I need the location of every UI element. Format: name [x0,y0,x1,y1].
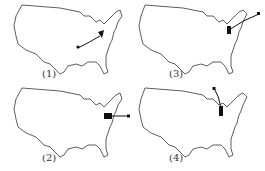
us-map-outline [133,0,265,85]
origin-marker [76,45,79,48]
cluster-marker [219,106,223,116]
endpoint-marker [257,12,260,15]
map-panel-1: (1) [0,0,132,85]
panel-label: (2) [42,152,56,163]
endpoint-marker [127,115,130,118]
cluster-marker [227,26,231,34]
map-panel-3: (3) [133,0,265,85]
us-map-outline [0,0,132,85]
endpoint-marker [213,87,216,90]
panel-label: (4) [169,152,183,163]
us-map-outline [0,86,132,171]
map-panel-4: (4) [133,86,265,171]
map-panel-2: (2) [0,86,132,171]
panel-label: (3) [169,68,183,79]
panel-label: (1) [42,68,56,79]
us-map-outline [133,86,265,171]
cluster-marker [104,113,112,119]
